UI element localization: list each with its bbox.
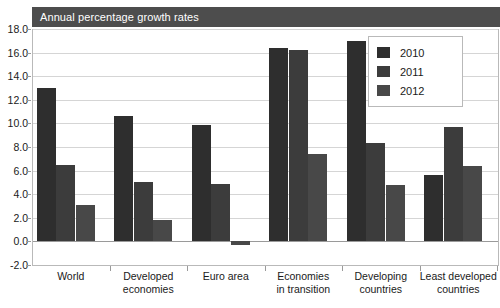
- y-axis-tick-label: 10.0: [0, 117, 28, 129]
- y-axis-tick-label: -2.0: [0, 259, 28, 271]
- x-axis-tick-mark: [497, 266, 498, 271]
- chart-figure: Annual percentage growth rates 18.016.01…: [0, 0, 500, 308]
- x-axis-label-line: Least developed: [420, 270, 498, 283]
- y-axis-tick-mark: [26, 76, 31, 77]
- x-axis-label-line: Euro area: [187, 270, 265, 283]
- y-axis-tick-label: 12.0: [0, 94, 28, 106]
- bar-2011-euro-area: [211, 184, 230, 242]
- x-axis-category-label: Economiesin transition: [265, 270, 343, 296]
- x-axis-label-line: countries: [342, 283, 420, 296]
- x-axis-label-line: economies: [110, 283, 188, 296]
- gridline: [33, 265, 498, 266]
- legend-item-2010: 2010: [377, 43, 454, 62]
- legend-item-2012: 2012: [377, 81, 454, 100]
- y-axis-tick-label: 2.0: [0, 212, 28, 224]
- bar-2011-developed-economies: [134, 182, 153, 241]
- bar-2011-world: [56, 165, 75, 242]
- y-axis-tick-label: 6.0: [0, 165, 28, 177]
- y-axis-tick-mark: [26, 171, 31, 172]
- legend-item-2011: 2011: [377, 62, 454, 81]
- bar-2010-developed-economies: [114, 116, 133, 241]
- bar-2012-developing-countries: [386, 185, 405, 242]
- y-axis-tick-label: 14.0: [0, 70, 28, 82]
- y-axis-tick-label: 18.0: [0, 23, 28, 35]
- x-axis-label-line: countries: [420, 283, 498, 296]
- x-axis-label-line: Developing: [342, 270, 420, 283]
- legend-swatch-icon: [377, 66, 390, 77]
- gridline: [33, 29, 498, 30]
- x-axis-category-label: Developingcountries: [342, 270, 420, 296]
- bar-2012-least-developed-countries: [463, 166, 482, 242]
- x-axis-category-label: Euro area: [187, 270, 265, 283]
- y-axis-tick-mark: [26, 265, 31, 266]
- bar-2012-world: [76, 205, 95, 242]
- legend-label: 2012: [400, 85, 424, 97]
- x-axis-label-line: Developed: [110, 270, 188, 283]
- bar-2011-economies-in-transition: [289, 50, 308, 241]
- y-axis-tick-mark: [26, 123, 31, 124]
- bar-2012-economies-in-transition: [308, 154, 327, 241]
- x-axis-category-label: Least developedcountries: [420, 270, 498, 296]
- y-axis-tick-label: 8.0: [0, 141, 28, 153]
- x-axis-label-line: Economies: [265, 270, 343, 283]
- legend-swatch-icon: [377, 85, 390, 96]
- legend-label: 2010: [400, 47, 424, 59]
- y-axis-tick-mark: [26, 241, 31, 242]
- y-axis-tick-label: 0.0: [0, 235, 28, 247]
- x-axis-label-line: World: [32, 270, 110, 283]
- bar-2011-developing-countries: [366, 143, 385, 241]
- y-axis-tick-mark: [26, 29, 31, 30]
- gridline: [33, 123, 498, 124]
- bar-2010-least-developed-countries: [424, 175, 443, 241]
- legend-label: 2011: [400, 66, 424, 78]
- bar-2010-world: [37, 88, 56, 241]
- bar-2010-developing-countries: [347, 41, 366, 242]
- x-axis-category-label: Developedeconomies: [110, 270, 188, 296]
- bar-2011-least-developed-countries: [444, 127, 463, 241]
- x-axis-label-line: in transition: [265, 283, 343, 296]
- bar-2010-economies-in-transition: [269, 48, 288, 242]
- gridline: [33, 147, 498, 148]
- y-axis-tick-mark: [26, 100, 31, 101]
- bar-2012-developed-economies: [153, 220, 172, 241]
- y-axis-tick-mark: [26, 147, 31, 148]
- legend-swatch-icon: [377, 47, 390, 58]
- y-axis-tick-mark: [26, 218, 31, 219]
- y-axis-tick-mark: [26, 194, 31, 195]
- x-axis-category-label: World: [32, 270, 110, 283]
- y-axis-tick-label: 4.0: [0, 188, 28, 200]
- y-axis-tick-mark: [26, 53, 31, 54]
- gridline: [33, 241, 498, 242]
- chart-title: Annual percentage growth rates: [32, 7, 500, 27]
- bar-2010-euro-area: [192, 125, 211, 242]
- gridline: [33, 171, 498, 172]
- bar-2012-euro-area: [231, 241, 250, 245]
- y-axis-tick-label: 16.0: [0, 47, 28, 59]
- chart-legend: 201020112012: [368, 36, 463, 107]
